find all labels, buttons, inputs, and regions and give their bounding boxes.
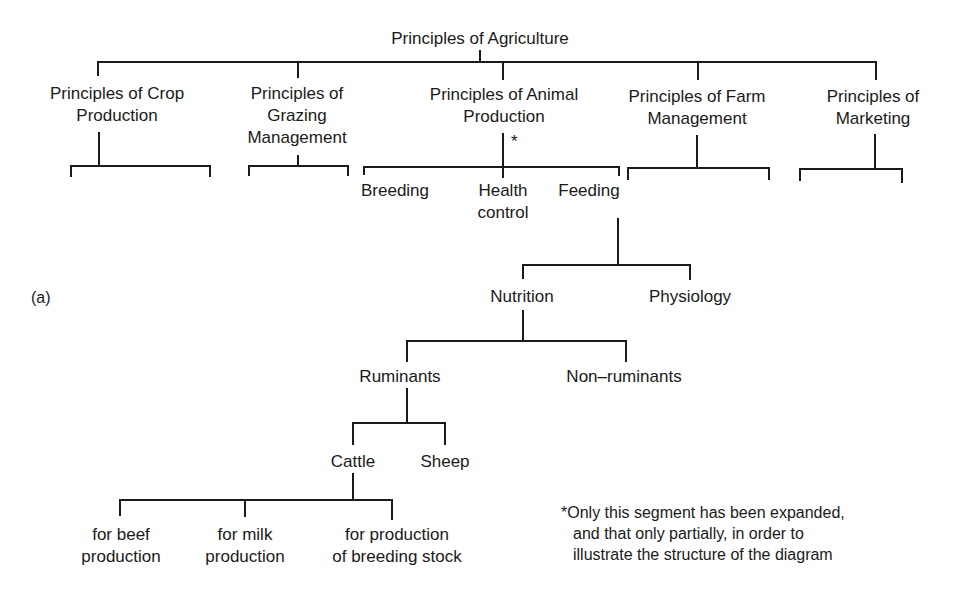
expanded-segment-asterisk: * [511,132,518,152]
agriculture-hierarchy-diagram: Principles of Agriculture Principles of … [0,0,963,599]
node-sheep: Sheep [420,451,469,473]
node-physiology: Physiology [649,286,731,308]
node-milk-production: for milk production [205,524,284,568]
node-breeding-stock: for production of breeding stock [332,524,461,568]
node-farm-management: Principles of Farm Management [629,86,766,130]
node-grazing-management: Principles of Grazing Management [247,83,346,149]
footnote: *Only this segment has been expanded, an… [561,502,845,565]
node-breeding: Breeding [361,180,429,202]
node-beef-production: for beef production [81,524,160,568]
node-animal-production: Principles of Animal Production [430,84,578,128]
node-non-ruminants: Non–ruminants [566,366,681,388]
root-label: Principles of Agriculture [391,28,569,50]
node-health-control: Health control [477,180,528,224]
figure-label: (a) [31,289,51,307]
root-node: Principles of Agriculture [391,28,569,50]
node-crop-production: Principles of Crop Production [50,83,184,127]
node-ruminants: Ruminants [359,366,440,388]
node-marketing: Principles of Marketing [827,86,920,130]
node-nutrition: Nutrition [490,286,553,308]
node-feeding: Feeding [558,180,619,202]
node-cattle: Cattle [331,451,375,473]
